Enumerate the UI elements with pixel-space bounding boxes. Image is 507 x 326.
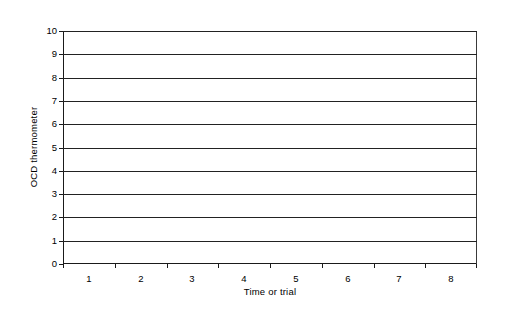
y-tick-label-3: 3: [52, 189, 57, 199]
y-tick-mark-7: [59, 101, 63, 102]
gridline-y-8: [63, 78, 477, 79]
gridline-y-1: [63, 241, 477, 242]
gridline-y-9: [63, 54, 477, 55]
y-tick-label-1: 1: [52, 236, 57, 246]
gridline-y-3: [63, 194, 477, 195]
x-tick-mark-3: [218, 264, 219, 268]
y-axis-title-label: OCD thermometer: [28, 107, 39, 188]
y-tick-label-10: 10: [46, 26, 57, 36]
x-axis-title: Time or trial: [63, 286, 477, 297]
x-tick-mark-8: [476, 264, 477, 268]
x-tick-label-2: 2: [138, 274, 143, 284]
y-tick-label-7: 7: [52, 96, 57, 106]
x-tick-mark-2: [167, 264, 168, 268]
y-tick-mark-1: [59, 241, 63, 242]
y-axis-title: OCD thermometer: [26, 28, 40, 266]
x-tick-label-3: 3: [189, 274, 194, 284]
y-tick-mark-3: [59, 194, 63, 195]
y-tick-mark-9: [59, 54, 63, 55]
y-tick-label-6: 6: [52, 119, 57, 129]
y-tick-label-0: 0: [52, 259, 57, 269]
y-tick-mark-5: [59, 148, 63, 149]
gridline-y-4: [63, 171, 477, 172]
x-tick-label-8: 8: [448, 274, 453, 284]
y-tick-mark-6: [59, 124, 63, 125]
x-tick-mark-4: [270, 264, 271, 268]
plot-area: 012345678910 12345678: [63, 31, 477, 264]
chart-figure: OCD thermometer 012345678910 12345678 Ti…: [0, 0, 507, 326]
x-tick-label-7: 7: [396, 274, 401, 284]
x-tick-mark-1: [115, 264, 116, 268]
gridline-y-5: [63, 148, 477, 149]
y-tick-label-2: 2: [52, 212, 57, 222]
x-tick-mark-0: [63, 264, 64, 268]
x-tick-label-5: 5: [293, 274, 298, 284]
x-tick-mark-5: [322, 264, 323, 268]
gridline-y-10: [63, 31, 477, 32]
y-tick-label-8: 8: [52, 73, 57, 83]
x-tick-label-6: 6: [345, 274, 350, 284]
x-tick-mark-6: [374, 264, 375, 268]
x-tick-label-1: 1: [86, 274, 91, 284]
y-tick-mark-4: [59, 171, 63, 172]
y-tick-label-5: 5: [52, 143, 57, 153]
gridline-y-7: [63, 101, 477, 102]
y-tick-label-9: 9: [52, 49, 57, 59]
gridline-y-2: [63, 217, 477, 218]
y-tick-mark-10: [59, 31, 63, 32]
x-tick-label-4: 4: [241, 274, 246, 284]
y-tick-mark-2: [59, 217, 63, 218]
x-tick-mark-7: [425, 264, 426, 268]
gridline-y-6: [63, 124, 477, 125]
y-tick-mark-8: [59, 78, 63, 79]
y-tick-label-4: 4: [52, 166, 57, 176]
